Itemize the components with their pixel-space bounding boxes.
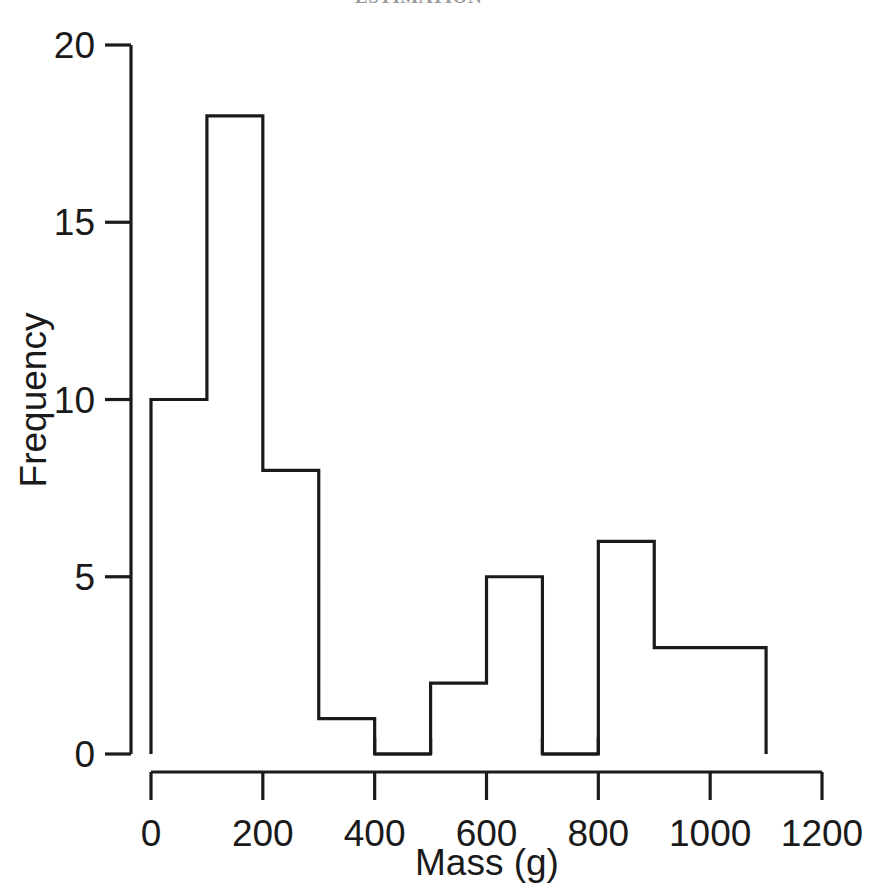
x-tick-label: 800 bbox=[567, 813, 629, 854]
y-tick-label: 0 bbox=[74, 734, 95, 775]
x-tick-label: 1200 bbox=[781, 813, 863, 854]
x-tick-label: 0 bbox=[141, 813, 162, 854]
x-tick-label: 400 bbox=[344, 813, 406, 854]
x-tick-label: 1000 bbox=[669, 813, 751, 854]
y-axis-title: Frequency bbox=[13, 312, 54, 487]
histogram-plot: 05101520 020040060080010001200 Mass (g) … bbox=[0, 0, 892, 895]
y-axis: 05101520 bbox=[54, 25, 131, 775]
histogram-figure: ESTIMATION 05101520 02004006008001000120… bbox=[0, 0, 892, 895]
y-tick-label: 10 bbox=[54, 380, 95, 421]
y-tick-label: 5 bbox=[74, 557, 95, 598]
x-axis-title: Mass (g) bbox=[415, 842, 559, 883]
y-tick-label: 15 bbox=[54, 202, 95, 243]
y-tick-label: 20 bbox=[54, 25, 95, 66]
histogram-bars bbox=[151, 116, 766, 754]
x-tick-label: 200 bbox=[232, 813, 294, 854]
